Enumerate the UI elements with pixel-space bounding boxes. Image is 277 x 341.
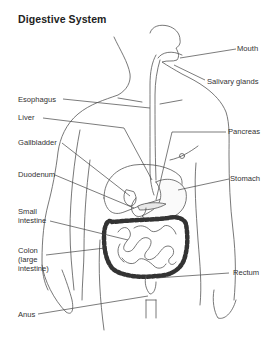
- label-small-intestine-line2: intestine: [18, 216, 46, 225]
- right-arm-inner: [195, 163, 201, 305]
- leader-colon: [46, 248, 105, 255]
- label-duodenum: Duodenum: [18, 170, 55, 179]
- label-small-intestine: Small intestine: [18, 207, 46, 225]
- stomach-outline: [142, 179, 186, 221]
- clavicle-right: [160, 100, 182, 104]
- label-rectum: Rectum: [233, 268, 259, 277]
- leader-anus: [38, 296, 148, 314]
- face-profile-outline: [150, 25, 235, 300]
- label-liver: Liver: [18, 113, 34, 122]
- right-hand: [213, 290, 236, 318]
- label-small-intestine-line1: Small: [18, 207, 46, 216]
- label-esophagus: Esophagus: [18, 95, 56, 104]
- leader-mouth: [180, 49, 236, 58]
- leader-esophagus: [63, 99, 150, 108]
- neck-back-outline: [42, 37, 130, 290]
- label-mouth: Mouth: [237, 44, 258, 53]
- left-arm-outline: [70, 130, 80, 290]
- label-colon-line3: intestine): [18, 264, 49, 273]
- label-salivary-glands: Salivary glands: [207, 77, 259, 86]
- label-colon: Colon (large intestine): [18, 246, 49, 273]
- label-anus: Anus: [18, 310, 35, 319]
- small-intestine-coils: [118, 225, 176, 268]
- leader-duodenum: [55, 175, 134, 208]
- label-stomach: Stomach: [230, 174, 260, 183]
- esophagus-tube-inner: [155, 60, 160, 180]
- leader-liver: [43, 118, 124, 128]
- label-colon-line2: (large: [18, 255, 49, 264]
- leader-stomach: [178, 179, 229, 190]
- label-pancreas: Pancreas: [228, 127, 260, 136]
- clavicle-left: [118, 98, 142, 102]
- label-gallbladder: Gallbladder: [18, 138, 57, 147]
- anal-canal-outline: [146, 300, 156, 318]
- leader-small-intestine: [50, 221, 128, 240]
- label-colon-line1: Colon: [18, 246, 49, 255]
- colon-outline: [104, 217, 187, 276]
- leader-liver-2: [124, 128, 152, 180]
